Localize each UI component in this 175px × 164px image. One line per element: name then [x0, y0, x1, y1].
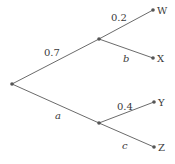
leaf-label-w: W: [157, 5, 168, 16]
leaf-node-w: [151, 8, 155, 12]
root-node: [10, 82, 14, 86]
lower-branch-node: [97, 121, 101, 125]
leaf-label-x: X: [157, 53, 165, 64]
probability-tree-diagram: 0.7 a 0.2 b 0.4 c W X Y Z: [0, 0, 175, 164]
edge-label-root-upper: 0.7: [44, 47, 60, 58]
leaf-node-y: [152, 100, 156, 104]
leaf-label-z: Z: [158, 142, 165, 153]
leaf-node-z: [152, 145, 156, 149]
upper-branch-node: [97, 37, 101, 41]
leaf-label-y: Y: [157, 97, 165, 108]
edge-label-upper-w: 0.2: [111, 12, 127, 23]
edge-label-lower-z: c: [122, 140, 128, 151]
edge-label-lower-y: 0.4: [117, 101, 133, 112]
leaf-node-x: [151, 56, 155, 60]
edge-label-root-lower: a: [55, 110, 61, 121]
edge-root-upper: [12, 39, 99, 84]
edge-label-upper-x: b: [123, 53, 129, 64]
